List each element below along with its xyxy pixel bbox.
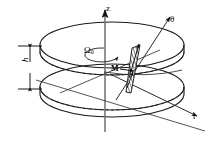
- theta-axis: [116, 17, 170, 100]
- omega-label: Ω0: [84, 46, 94, 55]
- magnetization-label: M: [111, 65, 119, 73]
- omega-symbol: Ω: [84, 45, 91, 55]
- height-dimension: [18, 46, 42, 89]
- omega-subscript: 0: [91, 49, 94, 55]
- construction-lines: [36, 50, 205, 131]
- theta-axis-label: θ: [170, 15, 174, 24]
- diagram-canvas: [0, 0, 215, 142]
- physics-diagram: z θ r Ω0 M h: [0, 0, 215, 142]
- height-label: h: [21, 58, 30, 63]
- z-axis-label: z: [106, 4, 110, 13]
- r-axis-label: r: [193, 112, 196, 121]
